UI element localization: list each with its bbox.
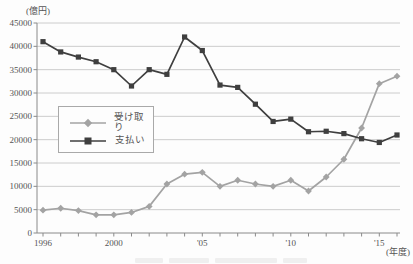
y-tick-label: 30000 xyxy=(10,88,33,98)
caption-fragment xyxy=(169,258,209,263)
chart-figure: (億円) 05000100001500020000250003000035000… xyxy=(0,0,413,264)
data-point-marker xyxy=(270,183,277,190)
caption-fragment xyxy=(215,258,277,263)
legend-item-receipts: 受け取り xyxy=(59,113,153,132)
square-marker-icon xyxy=(85,138,92,145)
data-point-marker xyxy=(181,171,188,178)
data-point-marker xyxy=(200,48,205,53)
caption-fragment xyxy=(283,258,307,263)
data-point-marker xyxy=(58,49,63,54)
data-point-marker xyxy=(182,34,187,39)
data-point-marker xyxy=(75,207,82,214)
data-point-marker xyxy=(324,129,329,134)
legend-sample-receipts xyxy=(69,118,106,128)
data-point-marker xyxy=(147,67,152,72)
x-tick-label: 2000 xyxy=(105,238,124,248)
y-tick-label: 25000 xyxy=(10,111,33,121)
data-point-marker xyxy=(129,83,134,88)
legend: 受け取り 支払い xyxy=(58,106,154,153)
y-tick-label: 20000 xyxy=(10,135,33,145)
y-tick-label: 40000 xyxy=(10,41,33,51)
data-point-marker xyxy=(377,140,382,145)
data-point-marker xyxy=(271,119,276,124)
data-point-marker xyxy=(341,131,346,136)
data-point-marker xyxy=(164,72,169,77)
data-point-marker xyxy=(235,85,240,90)
diamond-marker-icon xyxy=(84,118,92,126)
y-tick-label: 10000 xyxy=(10,181,33,191)
x-axis-unit-label: (年度) xyxy=(386,245,410,258)
data-point-marker xyxy=(94,59,99,64)
data-point-marker xyxy=(76,54,81,59)
data-point-marker xyxy=(57,205,64,212)
y-tick-label: 35000 xyxy=(10,65,33,75)
data-point-marker xyxy=(359,136,364,141)
legend-label-receipts: 受け取り xyxy=(114,113,153,132)
cropped-caption-remnant xyxy=(135,258,320,264)
data-point-marker xyxy=(394,73,401,80)
data-point-marker xyxy=(358,125,365,132)
legend-label-payments: 支払い xyxy=(115,136,145,146)
data-point-marker xyxy=(288,117,293,122)
data-point-marker xyxy=(93,211,100,218)
data-point-marker xyxy=(110,211,117,218)
data-point-marker xyxy=(234,177,241,184)
x-tick-label: '15 xyxy=(374,238,385,248)
data-point-marker xyxy=(40,207,47,214)
x-tick-label: '05 xyxy=(197,238,208,248)
y-tick-label: 45000 xyxy=(10,18,33,28)
legend-item-payments: 支払い xyxy=(59,136,153,146)
data-point-marker xyxy=(394,132,399,137)
data-point-marker xyxy=(253,102,258,107)
data-point-marker xyxy=(40,39,45,44)
data-point-marker xyxy=(306,129,311,134)
x-tick-label: 1996 xyxy=(34,238,53,248)
y-tick-label: 0 xyxy=(28,228,33,238)
y-tick-label: 15000 xyxy=(10,158,33,168)
y-tick-label: 5000 xyxy=(14,205,33,215)
data-point-marker xyxy=(217,82,222,87)
data-point-marker xyxy=(111,67,116,72)
x-tick-label: '10 xyxy=(285,238,296,248)
data-point-marker xyxy=(376,80,383,87)
legend-sample-payments xyxy=(69,136,107,146)
caption-fragment xyxy=(135,258,163,263)
